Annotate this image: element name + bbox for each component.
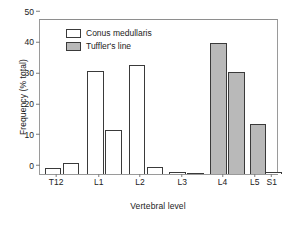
x-axis-tick-label: L2: [135, 178, 144, 187]
bar-l4-b: [228, 72, 245, 174]
x-axis-title: Vertebral level: [38, 201, 278, 211]
x-axis-tick: L5: [250, 174, 259, 187]
chart-figure: Frequency (% total) 01020304050 T12L1L2L…: [0, 0, 287, 227]
bar-l4-a: [210, 43, 227, 174]
legend-item: Conus medullaris: [66, 27, 152, 39]
chart-legend: Conus medullarisTuffler's line: [66, 27, 152, 53]
y-axis-tick-mark: [36, 73, 40, 74]
x-axis-tick: L3: [177, 174, 186, 187]
bar-l1-b: [105, 130, 122, 174]
y-axis-tick: 0: [29, 161, 40, 170]
bar-t12-a: [45, 168, 62, 174]
y-axis-tick-mark: [36, 165, 40, 166]
y-axis-tick-label: 0: [29, 161, 36, 170]
x-axis-tick: L2: [135, 174, 144, 187]
x-axis-tick: L1: [94, 174, 103, 187]
bar-l5-a: [250, 124, 267, 174]
x-axis-tick-label: T12: [49, 178, 64, 187]
legend-item: Tuffler's line: [66, 40, 152, 52]
x-axis-tick-label: L5: [250, 178, 259, 187]
y-axis-tick-label: 50: [25, 7, 36, 16]
y-axis-tick-mark: [36, 103, 40, 104]
y-axis-tick-mark: [36, 11, 40, 12]
y-axis-tick-label: 10: [25, 130, 36, 139]
y-axis-tick-mark: [36, 134, 40, 135]
legend-swatch-icon: [66, 29, 81, 38]
y-axis-title: Frequency (% total): [18, 27, 28, 167]
x-axis-tick-label: L1: [94, 178, 103, 187]
y-axis-tick-label: 30: [25, 69, 36, 78]
legend-label: Conus medullaris: [86, 29, 152, 38]
x-axis-tick-label: L3: [177, 178, 186, 187]
bar-l3-b: [187, 173, 204, 174]
y-axis-tick-label: 40: [25, 38, 36, 47]
y-axis-tick: 10: [25, 130, 40, 139]
x-axis-tick: L4: [218, 174, 227, 187]
bar-l2-a: [129, 65, 146, 174]
y-axis-tick: 40: [25, 38, 40, 47]
x-axis-tick-label: S1: [267, 178, 277, 187]
bar-t12-b: [63, 163, 80, 174]
bar-l3-a: [169, 172, 186, 174]
bar-l2-b: [147, 167, 164, 174]
y-axis-tick-label: 20: [25, 100, 36, 109]
y-axis-tick: 30: [25, 69, 40, 78]
bar-s1-a: [265, 172, 282, 174]
x-axis-tick-label: L4: [218, 178, 227, 187]
bar-l1-a: [87, 71, 104, 174]
x-axis-tick: T12: [49, 174, 64, 187]
y-axis-tick: 20: [25, 100, 40, 109]
legend-label: Tuffler's line: [86, 42, 131, 51]
plot-area: 01020304050 T12L1L2L3L4L5S1 Conus medull…: [39, 19, 278, 175]
y-axis-tick-mark: [36, 42, 40, 43]
y-axis-tick: 50: [25, 7, 40, 16]
x-axis-tick: S1: [267, 174, 277, 187]
legend-swatch-icon: [66, 42, 81, 51]
